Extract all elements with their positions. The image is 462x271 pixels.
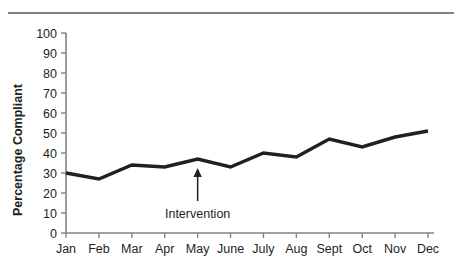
y-axis-tick-labels: 0102030405060708090100 [36,27,57,241]
y-tick-label: 90 [43,47,57,61]
y-tick-label: 50 [43,127,57,141]
x-tick-label: May [186,242,210,256]
y-tick-label: 0 [50,227,57,241]
y-tick-label: 30 [43,167,57,181]
x-axis-tick-labels: JanFebMarAprMayJuneJulyAugSeptOctNovDec [56,242,439,256]
annotation-label: Intervention [165,207,230,221]
y-tick-label: 100 [36,27,57,41]
y-tick-label: 20 [43,187,57,201]
x-tick-label: June [217,242,244,256]
x-tick-label: Mar [121,242,143,256]
figure-container: Percentage Compliant 0102030405060708090… [0,0,462,271]
x-tick-label: Aug [285,242,307,256]
top-rule-divider [8,12,454,14]
y-axis-title: Percentage Compliant [11,83,25,216]
y-tick-label: 10 [43,207,57,221]
x-tick-label: Jan [56,242,76,256]
x-tick-label: Apr [155,242,174,256]
y-tick-label: 40 [43,147,57,161]
annotation-arrow-head [193,168,201,177]
x-tick-label: Dec [417,242,439,256]
x-tick-label: July [252,242,275,256]
y-tick-label: 60 [43,107,57,121]
x-tick-label: Nov [384,242,407,256]
intervention-annotation: Intervention [165,168,230,221]
y-tick-label: 70 [43,87,57,101]
x-tick-label: Feb [88,242,110,256]
data-series-line [66,131,428,179]
x-tick-label: Oct [352,242,372,256]
line-chart: Percentage Compliant 0102030405060708090… [0,18,462,271]
chart-plot-area: Percentage Compliant 0102030405060708090… [0,18,462,271]
x-tick-label: Sept [316,242,342,256]
y-tick-label: 80 [43,67,57,81]
